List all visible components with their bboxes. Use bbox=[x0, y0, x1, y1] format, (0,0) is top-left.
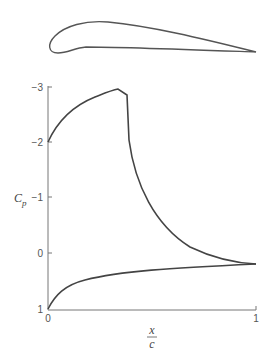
y-tick-label: −3 bbox=[32, 82, 44, 93]
x-tick-label: 0 bbox=[45, 313, 51, 324]
x-tick-label: 1 bbox=[253, 313, 259, 324]
y-tick-label: −2 bbox=[32, 137, 44, 148]
chart-canvas: −3 −2 −1 0 1 0 1 C p x c bbox=[0, 0, 272, 362]
y-tick-label: 0 bbox=[37, 248, 43, 259]
lower-surface-curve bbox=[48, 264, 256, 309]
y-tick-label: 1 bbox=[37, 304, 43, 315]
airfoil-profile bbox=[50, 22, 256, 53]
x-axis-label-num: x bbox=[148, 323, 155, 337]
y-axis-label-sub: p bbox=[21, 198, 27, 208]
x-axis-label-den: c bbox=[149, 337, 155, 351]
y-ticks bbox=[48, 87, 256, 310]
upper-surface-curve bbox=[48, 89, 256, 264]
y-tick-label: −1 bbox=[32, 192, 44, 203]
